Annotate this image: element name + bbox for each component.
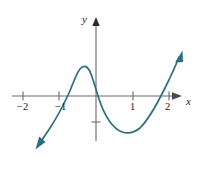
x-tick-label-neg1: −1 bbox=[55, 102, 66, 113]
cubic-graph-figure: y x −2 −1 1 2 bbox=[0, 0, 200, 173]
y-axis-label: y bbox=[82, 14, 87, 25]
x-axis-label: x bbox=[186, 96, 191, 107]
x-tick-label-pos2: 2 bbox=[165, 102, 170, 113]
y-axis-arrow-icon bbox=[92, 17, 99, 26]
cubic-curve bbox=[40, 57, 179, 143]
x-tick-label-neg2: −2 bbox=[17, 102, 28, 113]
x-tick-label-pos1: 1 bbox=[130, 102, 135, 113]
x-axis-arrow-icon bbox=[172, 92, 182, 100]
curve-arrow-end-icon bbox=[175, 51, 183, 63]
plot-canvas bbox=[0, 0, 200, 173]
